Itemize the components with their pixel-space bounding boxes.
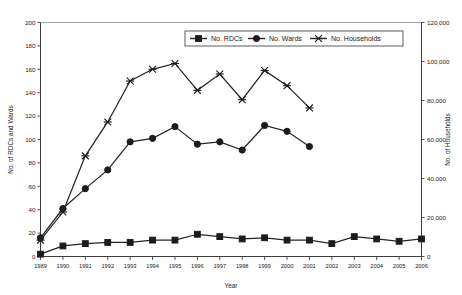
x-tick-label: 1991 bbox=[79, 263, 92, 269]
data-point-square bbox=[82, 241, 88, 247]
left-tick-label: 200 bbox=[25, 19, 36, 26]
x-tick-label: 1993 bbox=[124, 263, 137, 269]
data-point-circle bbox=[217, 139, 223, 145]
x-tick-label: 2001 bbox=[303, 263, 316, 269]
legend-item-label: No. Households bbox=[331, 35, 381, 42]
left-tick-label: 100 bbox=[25, 136, 36, 143]
chart-legend: No. RDCsNo. WardsNo. Households bbox=[185, 31, 403, 46]
left-tick-label: 140 bbox=[25, 89, 36, 96]
left-tick-label: 20 bbox=[29, 229, 36, 236]
legend-item-label: No. Wards bbox=[269, 35, 302, 42]
chart-container: 020406080100120140160180200 020,00040,00… bbox=[0, 0, 462, 295]
x-tick-label: 1997 bbox=[213, 263, 226, 269]
data-point-square bbox=[38, 251, 44, 257]
x-tick-label: 2006 bbox=[415, 263, 428, 269]
data-point-square bbox=[351, 234, 357, 240]
x-tick-label: 1999 bbox=[258, 263, 271, 269]
data-point-square bbox=[374, 236, 380, 242]
data-point-square bbox=[284, 237, 290, 243]
legend-item-no-wards[interactable]: No. Wards bbox=[248, 35, 302, 42]
x-tick-label: 1989 bbox=[34, 263, 47, 269]
x-tick-label: 1990 bbox=[57, 263, 70, 269]
right-tick-label: 80,000 bbox=[427, 97, 446, 104]
left-tick-label: 80 bbox=[29, 159, 36, 166]
right-tick-label: 100,000 bbox=[427, 58, 450, 65]
data-point-square bbox=[60, 243, 66, 249]
x-axis-title: Year bbox=[225, 282, 239, 289]
data-point-circle bbox=[149, 135, 155, 141]
left-tick-label: 120 bbox=[25, 112, 36, 119]
data-point-circle bbox=[82, 186, 88, 192]
data-point-square bbox=[217, 234, 223, 240]
right-axis-title: No. of Households bbox=[444, 113, 451, 166]
data-point-square bbox=[127, 240, 133, 246]
data-point-square bbox=[239, 236, 245, 242]
data-point-square bbox=[307, 237, 313, 243]
left-axis-title: No. of RDCs and Wards bbox=[7, 105, 14, 173]
left-tick-label: 40 bbox=[29, 206, 36, 213]
legend-item-label: No. RDCs bbox=[211, 35, 243, 42]
data-point-circle bbox=[253, 35, 259, 41]
x-tick-label: 2000 bbox=[281, 263, 294, 269]
data-point-circle bbox=[194, 141, 200, 147]
x-tick-label: 1995 bbox=[169, 263, 182, 269]
data-point-square bbox=[150, 237, 156, 243]
data-point-square bbox=[194, 231, 200, 237]
right-tick-label: 0 bbox=[427, 253, 431, 260]
left-tick-label: 180 bbox=[25, 42, 36, 49]
data-point-square bbox=[329, 241, 335, 247]
data-point-circle bbox=[172, 124, 178, 130]
right-tick-label: 120,000 bbox=[427, 19, 450, 26]
left-tick-label: 60 bbox=[29, 183, 36, 190]
x-tick-label: 1994 bbox=[146, 263, 159, 269]
x-tick-label: 2005 bbox=[393, 263, 406, 269]
x-tick-label: 1992 bbox=[101, 263, 114, 269]
data-point-square bbox=[105, 240, 111, 246]
line-chart: 020406080100120140160180200 020,00040,00… bbox=[0, 0, 462, 295]
x-tick-label: 2004 bbox=[370, 263, 383, 269]
legend-item-no-households[interactable]: No. Households bbox=[310, 35, 381, 42]
data-point-square bbox=[172, 237, 178, 243]
right-tick-label: 40,000 bbox=[427, 175, 446, 182]
data-point-square bbox=[396, 238, 402, 244]
x-tick-label: 1998 bbox=[236, 263, 249, 269]
left-tick-label: 0 bbox=[32, 253, 36, 260]
data-point-circle bbox=[262, 122, 268, 128]
data-point-circle bbox=[239, 147, 245, 153]
data-point-circle bbox=[105, 167, 111, 173]
data-point-square bbox=[419, 236, 425, 242]
x-tick-label: 2003 bbox=[348, 263, 361, 269]
data-point-circle bbox=[127, 139, 133, 145]
x-tick-label: 1996 bbox=[191, 263, 204, 269]
x-tick-label: 2002 bbox=[326, 263, 339, 269]
legend-item-no-rdcs[interactable]: No. RDCs bbox=[190, 35, 243, 42]
data-point-square bbox=[262, 235, 268, 241]
right-tick-label: 20,000 bbox=[427, 214, 446, 221]
data-point-circle bbox=[284, 128, 290, 134]
data-point-square bbox=[196, 36, 202, 42]
left-tick-label: 160 bbox=[25, 66, 36, 73]
data-point-circle bbox=[306, 143, 312, 149]
